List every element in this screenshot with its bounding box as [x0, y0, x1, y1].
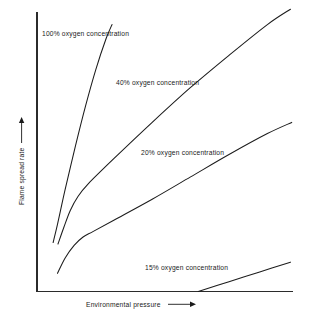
- series-curve-40: [58, 9, 290, 244]
- up-arrow-icon: [19, 117, 24, 123]
- y-axis-title: Flame spread rate: [18, 148, 26, 205]
- series-curve-100: [53, 25, 112, 243]
- y-axis-title-group: Flame spread rate: [18, 117, 26, 205]
- x-axis-title-group: Environmental pressure: [86, 301, 196, 309]
- series-label-40: 40% oxygen concentration: [116, 79, 199, 87]
- right-arrow-icon: [190, 302, 196, 307]
- series-label-20: 20% oxygen concentration: [141, 149, 224, 157]
- series-label-100: 100% oxygen concentration: [42, 30, 129, 38]
- x-axis-title: Environmental pressure: [86, 301, 161, 309]
- series-labels: 100% oxygen concentration 40% oxygen con…: [42, 30, 228, 272]
- series-curve-20: [57, 122, 291, 273]
- flame-spread-chart: 100% oxygen concentration 40% oxygen con…: [0, 0, 311, 316]
- chart-svg: 100% oxygen concentration 40% oxygen con…: [0, 0, 311, 316]
- series-label-15: 15% oxygen concentration: [145, 264, 228, 272]
